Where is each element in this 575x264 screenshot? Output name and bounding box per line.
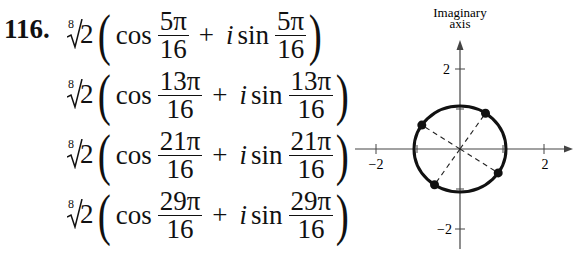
y-tick-label-neg2: −2 [437,222,452,237]
y-tick-label-2: 2 [443,62,450,77]
x-tick-label-neg2: −2 [369,157,384,172]
root-point-1 [481,109,490,118]
angle-fraction: 21π16 [158,128,203,183]
root-expression-3: 8 2 ( cos 21π16 + i sin 21π16 ) [67,126,350,184]
right-paren: ) [309,7,322,63]
root-expression-1: 8 2 ( cos 5π16 + i sin 5π16 ) [67,6,323,64]
angle-fraction: 13π16 [158,68,203,123]
eighth-root-2: 8 2 [67,135,97,175]
complex-plane-graph: Imaginary axis −2 2 2 −2 [340,0,575,264]
eighth-root-2: 8 2 [67,195,97,235]
angle-fraction: 5π16 [275,8,306,63]
imaginary-axis-arrow-icon [457,40,464,50]
root-expression-2: 8 2 ( cos 13π16 + i sin 13π16 ) [67,66,350,124]
root-point-3 [430,180,439,189]
x-tick-label-2: 2 [542,157,549,172]
angle-fraction: 5π16 [158,8,189,63]
eighth-root-2: 8 2 [67,75,97,115]
left-paren: ( [98,7,111,63]
angle-fraction: 13π16 [289,68,334,123]
root-point-4 [494,168,503,177]
root-expression-4: 8 2 ( cos 29π16 + i sin 29π16 ) [67,186,350,244]
left-paren: ( [98,127,111,183]
left-paren: ( [98,67,111,123]
left-paren: ( [98,187,111,243]
angle-fraction: 29π16 [289,188,334,243]
root-point-2 [417,121,426,130]
eighth-root-2: 8 2 [67,15,97,55]
angle-fraction: 29π16 [158,188,203,243]
y-axis-label-line2: axis [450,16,471,31]
angle-fraction: 21π16 [289,128,334,183]
exercise-number: 116. [4,14,50,45]
real-axis-arrow-icon [564,146,573,153]
